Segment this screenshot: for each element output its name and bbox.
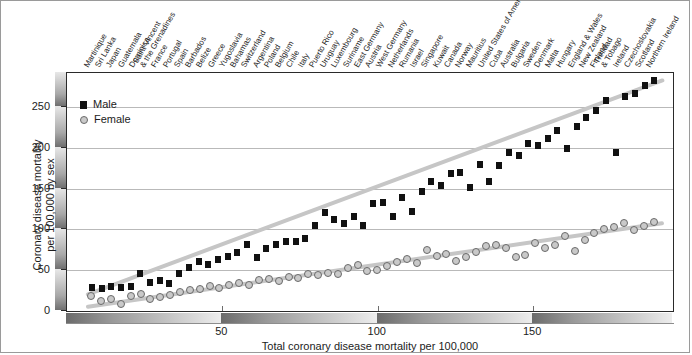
data-point-male [564,145,570,152]
male-marker-icon [80,101,87,109]
data-point-female [502,244,510,252]
legend-item-male: Male [80,97,131,112]
data-point-female [146,295,154,303]
data-point-female [137,290,145,298]
x-gradient-segment [377,313,532,323]
data-point-female [433,252,441,260]
data-point-female [393,258,401,266]
data-point-female [373,266,381,274]
data-point-male [225,253,231,260]
data-point-male [196,258,202,265]
data-point-female [521,251,529,259]
data-point-female [87,292,95,300]
data-point-female [561,232,569,240]
data-point-female [206,282,214,290]
y-axis-title-line1: Coronary disease mortality [31,140,43,271]
data-point-male [613,149,619,156]
legend-label-male: Male [93,97,117,112]
data-point-male [147,279,153,286]
data-point-male [157,277,163,284]
data-point-female [442,250,450,258]
data-point-female [571,247,579,255]
category-axis-labels: MartiniqueSri LankaJapanGuatemalaDominic… [0,0,692,72]
data-point-male [176,270,182,277]
data-point-male [583,114,589,121]
x-tick-label-150: 150 [512,325,552,337]
plot-area: Male Female [66,72,674,312]
data-point-female [590,229,598,237]
data-point-male [293,238,299,245]
data-point-male [234,249,240,256]
data-point-male [263,245,269,252]
data-point-female [225,281,233,289]
data-point-female [215,284,223,292]
x-gradient-segment [532,313,672,323]
data-point-male [535,142,541,149]
data-point-female [541,244,549,252]
data-point-male [370,200,376,207]
data-point-female [640,222,648,230]
data-point-female [423,246,431,254]
data-point-male [166,280,172,287]
data-point-male [545,135,551,142]
data-point-female [107,295,115,303]
data-point-male [496,162,502,169]
data-point-male [438,182,444,189]
data-point-male [448,170,454,177]
data-point-male [506,149,512,156]
data-point-female [462,253,470,261]
x-tick-label-100: 100 [357,325,397,337]
data-point-male [302,235,308,242]
x-gradient-segment [221,313,376,323]
data-point-male [428,178,434,185]
data-point-male [128,283,134,290]
data-point-male [137,270,143,277]
data-point-male [554,127,560,134]
data-point-female [344,264,352,272]
female-marker-icon [80,116,88,124]
legend-label-female: Female [94,112,131,127]
data-point-female [324,269,332,277]
data-point-male [254,254,260,261]
data-point-female [581,236,589,244]
y-axis-title-wrap: Coronary disease mortality per 100,000 b… [8,72,22,312]
data-point-female [186,286,194,294]
data-point-male [331,216,337,223]
x-tick-inner-50 [222,306,223,311]
data-point-male [457,169,463,176]
legend: Male Female [80,97,131,127]
data-point-male [99,285,105,292]
x-gradient-segment [66,313,221,323]
data-point-male [108,283,114,290]
data-point-male [409,208,415,215]
data-point-female [413,259,421,267]
data-point-male [525,140,531,147]
data-point-female [472,248,480,256]
data-point-male [574,123,580,130]
data-point-female [512,253,520,261]
data-point-male [89,284,95,291]
x-tick-inner-150 [533,306,534,311]
data-point-male [341,220,347,227]
data-point-male [244,241,250,248]
data-point-female [551,241,559,249]
data-point-male [603,97,609,104]
data-point-female [285,273,293,281]
data-point-male [283,238,289,245]
data-point-female [403,255,411,263]
data-point-male [632,90,638,97]
data-point-male [390,213,396,220]
data-point-female [650,218,658,226]
data-point-female [334,270,342,278]
data-point-male [322,209,328,216]
data-point-female [196,285,204,293]
data-point-female [492,241,500,249]
data-point-female [166,291,174,299]
x-tick-inner-100 [378,306,379,311]
legend-item-female: Female [80,112,131,127]
data-point-male [593,107,599,114]
data-point-female [156,293,164,301]
data-point-male [118,284,124,291]
data-point-male [651,77,657,84]
data-point-female [452,257,460,265]
